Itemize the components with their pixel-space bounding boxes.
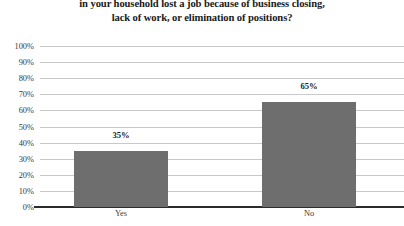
x-axis-tick-label-yes: Yes [74, 209, 168, 218]
gridline [40, 62, 404, 63]
bar-no[interactable] [262, 102, 356, 207]
y-axis-tick-label: 70% [0, 90, 34, 99]
x-axis-tick-label-no: No [262, 209, 356, 218]
y-axis-tick-label: 40% [0, 138, 34, 147]
plot-area: 35%65% [40, 46, 404, 207]
y-axis-tick-label: 80% [0, 74, 34, 83]
y-axis-tick-label: 60% [0, 106, 34, 115]
y-axis-tick-label: 10% [0, 186, 34, 195]
y-axis-tick-label: 50% [0, 122, 34, 131]
chart-title-line-1: in your household lost a job because of … [0, 0, 404, 11]
gridline [40, 94, 404, 95]
y-axis-tick-label: 30% [0, 154, 34, 163]
bar-chart: in your household lost a job because of … [0, 0, 404, 226]
y-axis-tick-label: 100% [0, 42, 34, 51]
gridline [40, 78, 404, 79]
y-axis-tick-label: 0% [0, 203, 34, 212]
chart-title: in your household lost a job because of … [0, 0, 404, 25]
chart-title-line-2: lack of work, or elimination of position… [0, 11, 404, 25]
gridline [40, 46, 404, 47]
bar-value-label-no: 65% [262, 81, 356, 91]
bar-value-label-yes: 35% [74, 130, 168, 140]
y-axis-tick-label: 90% [0, 58, 34, 67]
y-axis-tick-label: 20% [0, 170, 34, 179]
bar-yes[interactable] [74, 151, 168, 207]
